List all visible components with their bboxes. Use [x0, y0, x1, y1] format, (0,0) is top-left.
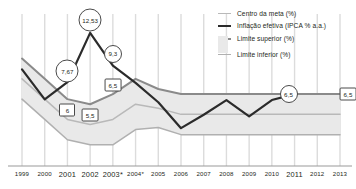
data-callout-6: 6,5: [280, 85, 298, 103]
x-tick-label-2006: 2006: [174, 170, 188, 177]
x-tick-label-2011: 2011: [286, 170, 303, 179]
x-tick-label-2008: 2008: [219, 170, 233, 177]
x-tick-label-2012: 2012: [310, 170, 324, 177]
legend-label: Limite inferior (%): [237, 51, 291, 59]
x-tick-label-2003s: 2003*: [103, 170, 123, 179]
data-callout-4: 5,5: [82, 109, 99, 122]
legend-label: Centro da meta (%): [237, 10, 296, 18]
data-callout-3: 6: [59, 104, 75, 117]
x-tick-label-2004s: 2004*: [127, 170, 144, 177]
legend-item-limite-inferior: Limite inferior (%): [218, 49, 354, 60]
x-tick-label-2009: 2009: [242, 170, 256, 177]
x-tick-label-2007: 2007: [197, 170, 211, 177]
data-callout-1: 12,53: [79, 8, 102, 31]
legend-item-limite-superior: Limite superior (%): [218, 33, 354, 44]
x-tick-label-1999: 1999: [15, 170, 29, 177]
legend-swatch-line-icon: [218, 54, 231, 55]
x-tick-label-2000: 2000: [38, 170, 52, 177]
legend-item-inflacao-efetiva: Inflação efetiva (IPCA % a.a.): [218, 21, 354, 32]
data-callout-0: 7,67: [56, 60, 79, 83]
chart-legend: Centro da meta (%) Inflação efetiva (IPC…: [218, 8, 354, 62]
x-tick-label-2013: 2013: [333, 170, 347, 177]
data-callout-2: 9,3: [104, 45, 122, 63]
data-callout-5: 6,5: [104, 79, 121, 92]
x-tick-label-2005: 2005: [151, 170, 165, 177]
x-tick-label-2002: 2002: [82, 170, 99, 179]
x-tick-label-2010: 2010: [265, 170, 279, 177]
x-axis-tick-labels: 19992000200120022003*2004*20052006200720…: [0, 170, 356, 184]
inflation-target-chart: 19992000200120022003*2004*20052006200720…: [0, 0, 356, 189]
legend-label: Inflação efetiva (IPCA % a.a.): [237, 22, 326, 30]
x-tick-label-2001: 2001: [59, 170, 76, 179]
legend-swatch-line-icon: [218, 13, 231, 14]
data-callout-7: 6,5: [340, 88, 356, 101]
legend-swatch-band-icon: [218, 36, 228, 53]
legend-swatch-line-icon: [218, 25, 231, 27]
legend-label: Limite superior (%): [237, 35, 294, 43]
legend-item-centro-da-meta: Centro da meta (%): [218, 8, 354, 19]
